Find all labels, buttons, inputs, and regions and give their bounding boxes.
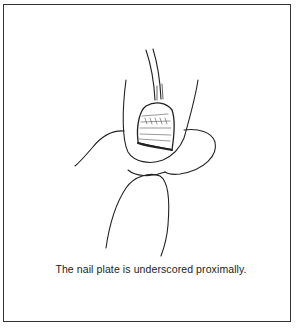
left-finger — [75, 131, 124, 166]
right-finger — [165, 130, 215, 175]
figure-caption: The nail plate is underscored proximally… — [0, 263, 302, 275]
nail-plate — [137, 103, 174, 150]
fingertip-illustration — [0, 0, 302, 328]
lower-finger — [106, 175, 169, 257]
probe-icon — [146, 49, 163, 100]
